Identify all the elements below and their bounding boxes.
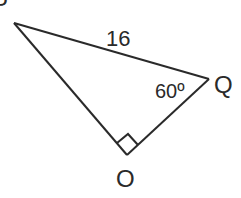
vertex-label-O: O bbox=[116, 165, 135, 192]
right-angle-marker bbox=[117, 134, 138, 145]
vertex-label-P: P bbox=[0, 0, 8, 17]
angle-label: 60º bbox=[155, 80, 185, 102]
triangle-diagram: P Q O 16 60º bbox=[0, 0, 241, 198]
side-length-label: 16 bbox=[106, 26, 130, 51]
vertex-label-Q: Q bbox=[214, 71, 233, 98]
